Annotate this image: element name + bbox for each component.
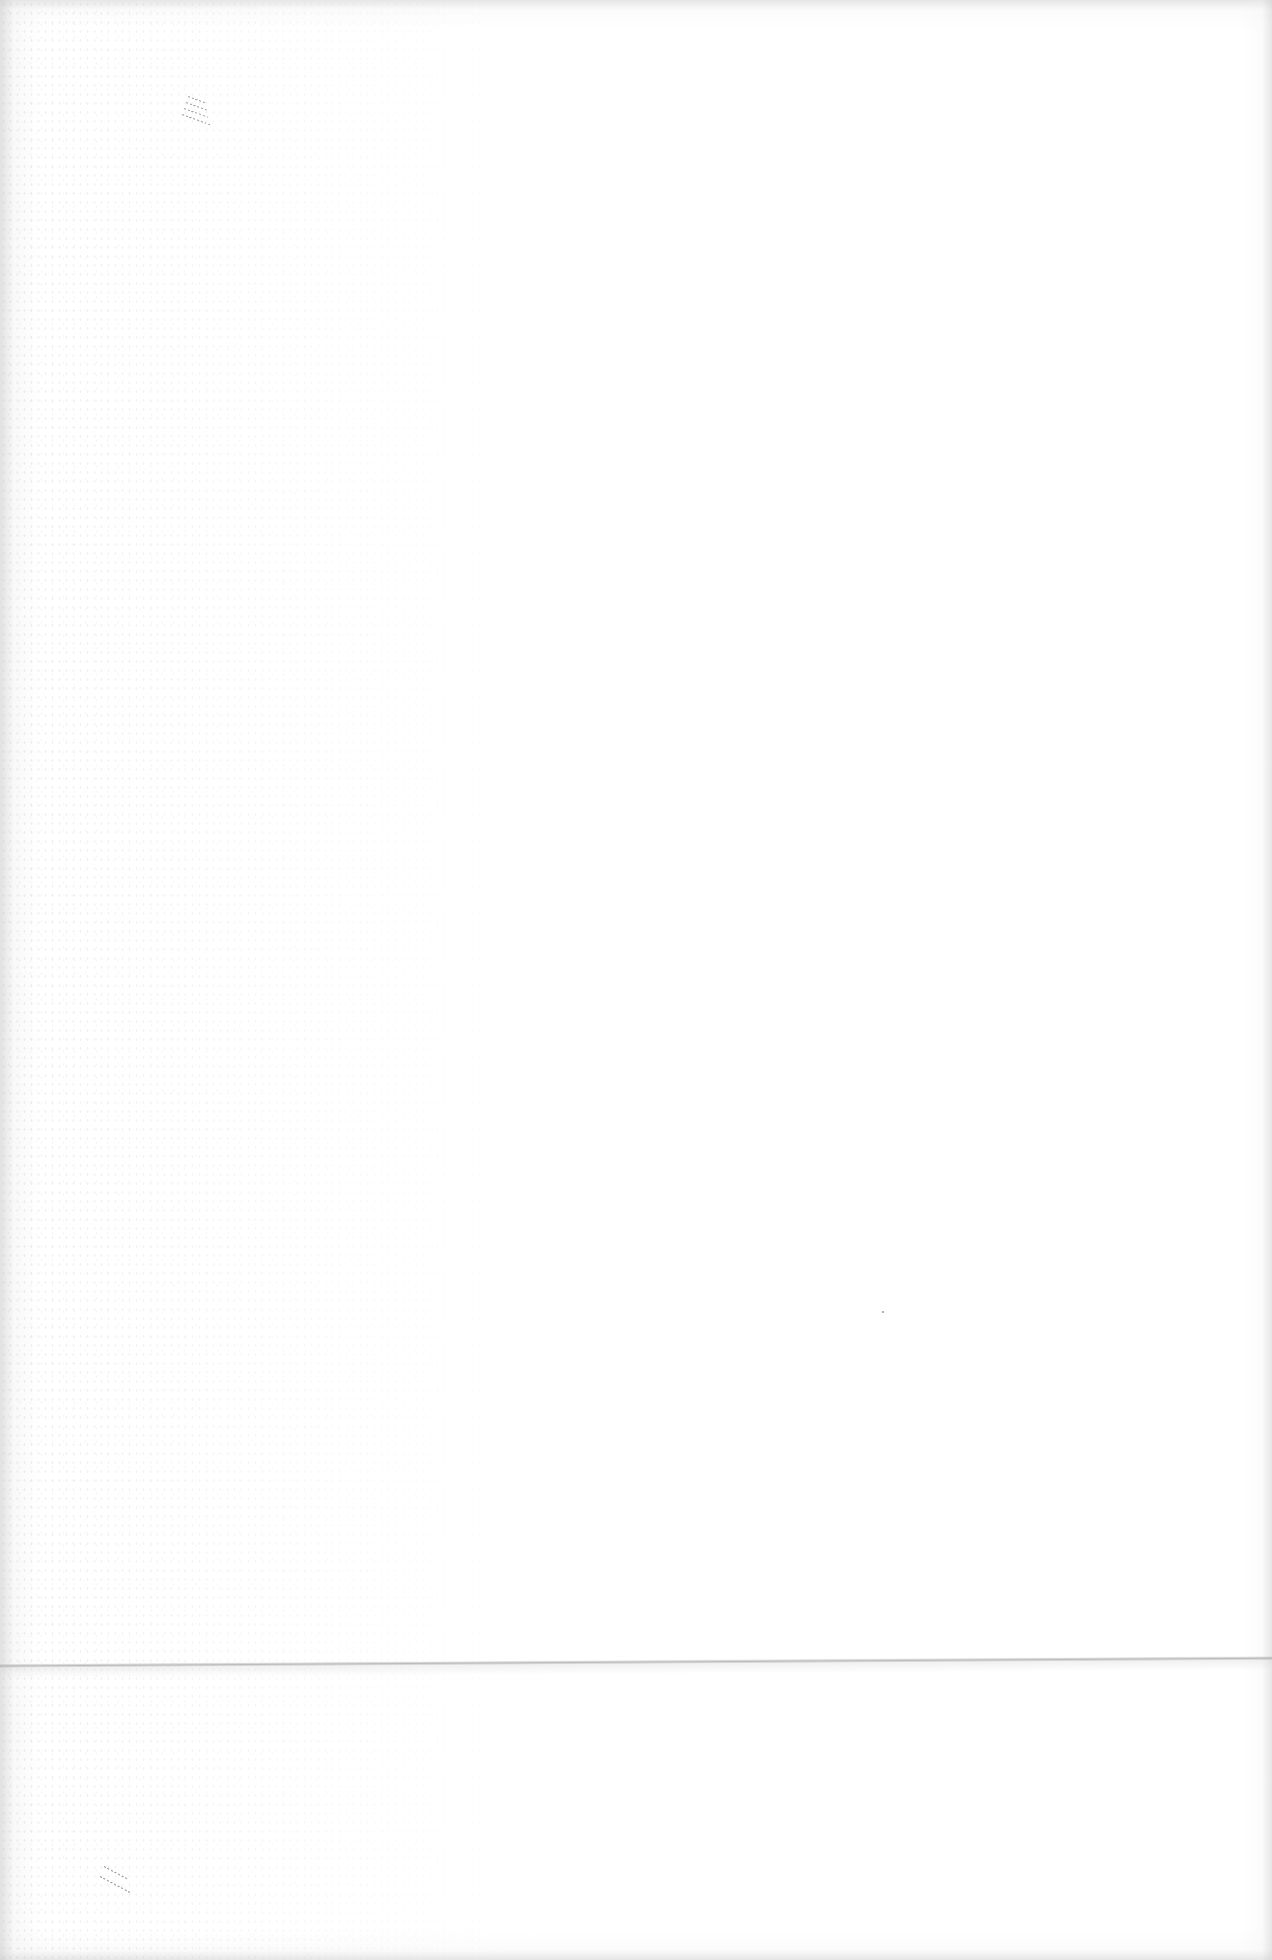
paper-speck xyxy=(882,1311,884,1313)
pen-mark xyxy=(104,1866,127,1879)
scanned-page: blank scanned page xyxy=(0,0,1272,1960)
pen-mark xyxy=(188,96,205,103)
